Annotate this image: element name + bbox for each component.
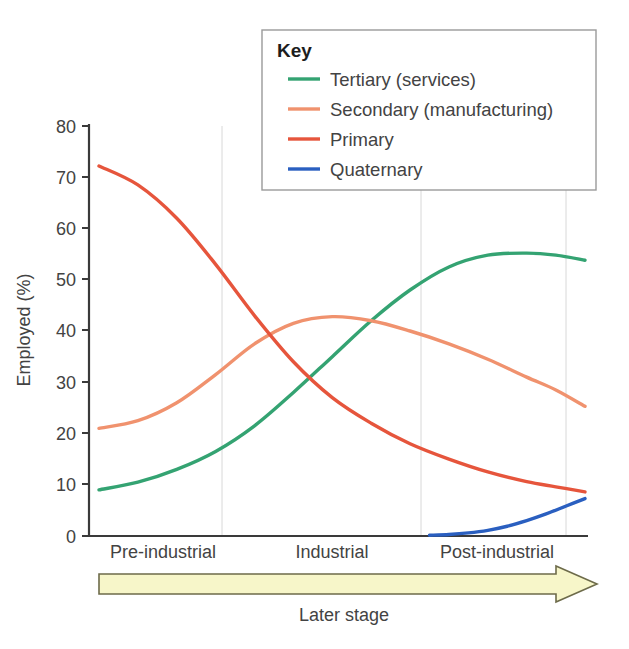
y-tick-label-0: 0 [66,527,76,547]
legend-title: Key [277,40,312,61]
later-stage-arrow: Later stage [99,566,597,625]
y-tick-label-10: 10 [56,475,76,495]
arrow-shape [99,566,597,602]
y-tick-label-80: 80 [56,117,76,137]
legend-label-secondary: Secondary (manufacturing) [330,99,553,120]
y-tick-label-50: 50 [56,270,76,290]
x-category-label-post-industrial: Post-industrial [440,542,554,562]
chart-container: 80 70 60 50 40 30 20 10 0 Employed (%) [0,0,629,649]
employment-by-sector-line-chart: 80 70 60 50 40 30 20 10 0 Employed (%) [0,0,629,649]
legend-label-primary: Primary [330,129,394,150]
series-line-secondary [99,317,585,429]
legend: Key Tertiary (services) Secondary (manuf… [262,30,596,190]
x-axis-category-labels: Pre-industrial Industrial Post-industria… [110,542,554,562]
series-group [99,166,585,535]
y-tick-label-20: 20 [56,424,76,444]
legend-label-tertiary: Tertiary (services) [330,69,476,90]
y-tick-label-60: 60 [56,219,76,239]
y-tick-label-70: 70 [56,168,76,188]
y-axis-title: Employed (%) [14,273,34,386]
x-category-label-industrial: Industrial [295,542,368,562]
series-line-primary [99,166,585,492]
legend-label-quaternary: Quaternary [330,159,423,180]
y-axis-ticks: 80 70 60 50 40 30 20 10 0 [56,117,89,547]
series-line-quaternary [429,499,585,536]
y-tick-label-30: 30 [56,373,76,393]
x-category-label-pre-industrial: Pre-industrial [110,542,216,562]
arrow-label-later-stage: Later stage [299,605,389,625]
y-tick-label-40: 40 [56,321,76,341]
